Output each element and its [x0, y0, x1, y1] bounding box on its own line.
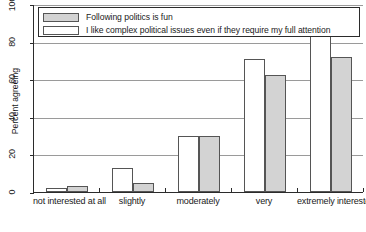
legend-entry-complex-political-issues: I like complex political issues even if …	[43, 24, 355, 36]
y-tick-label-0: 0	[7, 181, 17, 203]
bar-gray-2	[199, 136, 220, 192]
bar-white-1	[112, 168, 133, 192]
legend-entry-following-politics-is-fun: Following politics is fun	[43, 11, 355, 23]
legend-label-0: Following politics is fun	[86, 12, 173, 22]
y-tick-mark-0	[30, 193, 34, 194]
legend-label-1: I like complex political issues even if …	[86, 25, 330, 35]
bar-chart: Percent agreeing 020406080100 not intere…	[0, 0, 366, 232]
bar-gray-3	[265, 75, 286, 192]
y-tick-label-100: 100	[7, 0, 17, 15]
x-tick-mark-3	[297, 188, 298, 192]
x-tick-label-2: moderately	[165, 196, 231, 206]
bar-white-4	[310, 34, 331, 192]
y-tick-label-80: 80	[7, 31, 17, 53]
bar-white-0	[46, 188, 67, 192]
bar-gray-0	[67, 186, 88, 192]
y-tick-label-40: 40	[7, 106, 17, 128]
y-tick-label-60: 60	[7, 68, 17, 90]
bar-gray-1	[133, 183, 154, 192]
x-tick-mark-1	[165, 188, 166, 192]
x-tick-mark-0	[99, 188, 100, 192]
x-tick-label-1: slightly	[99, 196, 165, 206]
legend-swatch-gray	[43, 13, 79, 22]
x-tick-mark-4	[363, 188, 364, 192]
x-tick-label-3: very	[231, 196, 297, 206]
chart-legend: Following politics is fun I like complex…	[38, 7, 360, 37]
bar-white-3	[244, 59, 265, 192]
x-tick-label-4: extremely interested	[297, 196, 363, 206]
y-tick-label-20: 20	[7, 143, 17, 165]
x-tick-mark-2	[231, 188, 232, 192]
legend-swatch-white	[43, 26, 79, 35]
bar-gray-4	[331, 57, 352, 192]
x-tick-label-0: not interested at all	[33, 196, 99, 206]
bar-white-2	[178, 136, 199, 192]
